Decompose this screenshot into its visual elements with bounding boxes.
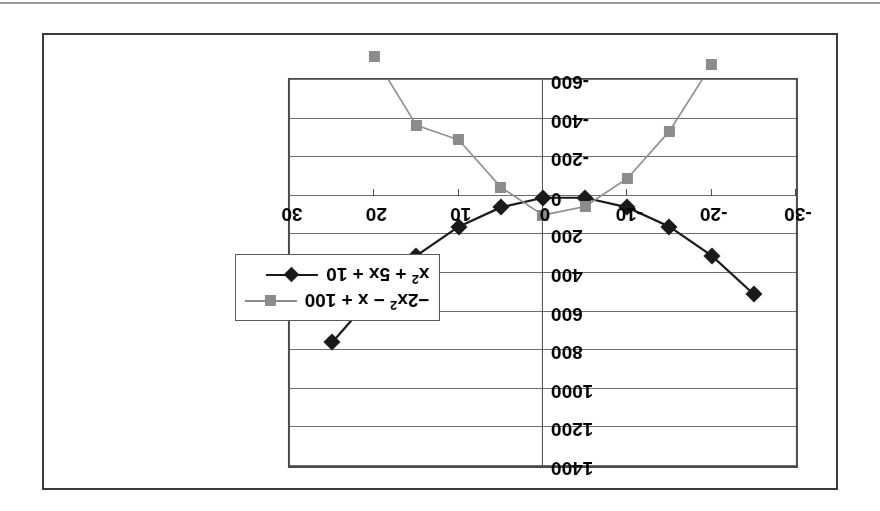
square-marker-point: [580, 201, 591, 212]
square-marker-point: [706, 59, 717, 70]
y-tick-label-5: 400: [551, 266, 583, 285]
y-tick-label-7: 800: [551, 343, 583, 362]
square-marker-point: [622, 173, 633, 184]
chart: -600-400-2002004006008001000120014000 -3…: [44, 35, 840, 492]
diamond-marker-icon: [266, 267, 318, 283]
square-marker-point: [664, 126, 675, 137]
y-tick-label-2: -200: [551, 150, 589, 169]
legend-item-1: x2 + 5x + 10: [245, 262, 430, 288]
y-tick-label-10: 1400: [551, 459, 593, 478]
legend-label-series-0: −2x2 − x + 100: [305, 291, 430, 311]
y-tick-label-1: -400: [551, 112, 589, 131]
x-tick-label-6: 30: [262, 205, 322, 224]
square-marker-icon: [245, 293, 297, 309]
square-marker-point: [453, 134, 464, 145]
y-tick-label-9: 1200: [551, 420, 593, 439]
scanned-page-frame: -600-400-2002004006008001000120014000 -3…: [42, 33, 838, 490]
square-marker-point: [411, 120, 422, 131]
square-marker-point: [369, 51, 380, 62]
x-tick-label-4: 10: [431, 205, 491, 224]
x-tick-label-5: 20: [346, 205, 406, 224]
x-tick-label-0: -30: [768, 205, 828, 224]
x-tick-label-1: -20: [684, 205, 744, 224]
y-tick-label-6: 600: [551, 305, 583, 324]
chart-legend: −2x2 − x + 100 x2 + 5x + 10: [235, 254, 440, 321]
rotated-chart-wrapper: -600-400-2002004006008001000120014000 -3…: [44, 35, 840, 492]
legend-item-0: −2x2 − x + 100: [245, 288, 430, 314]
scan-edge-line: [0, 2, 880, 4]
screenshot-canvas: -600-400-2002004006008001000120014000 -3…: [0, 0, 880, 511]
x-tick-label-2: -10: [599, 205, 659, 224]
x-tick-label-3: 0: [515, 205, 575, 224]
y-tick-label-0: -600: [551, 73, 589, 92]
y-tick-label-8: 1000: [551, 382, 593, 401]
y-tick-label-4: 200: [551, 227, 583, 246]
legend-label-series-1: x2 + 5x + 10: [326, 265, 429, 285]
square-marker-point: [495, 182, 506, 193]
